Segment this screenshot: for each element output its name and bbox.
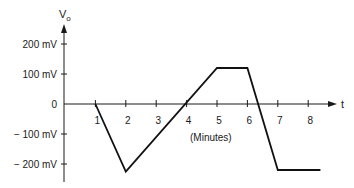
axes — [61, 24, 337, 182]
x-tick-label: 1 — [95, 115, 101, 126]
y-tick-label: − 100 mV — [14, 129, 57, 140]
x-tick-label: 7 — [277, 115, 283, 126]
chart: 200 mV100 mV0− 100 mV− 200 mV 12345678 V… — [0, 0, 354, 188]
y-tick-label: 200 mV — [23, 39, 58, 50]
x-tick-label: 8 — [307, 115, 313, 126]
y-axis-label: Vo — [59, 8, 71, 23]
y-tick-label: 100 mV — [23, 69, 58, 80]
x-tick-label: 6 — [247, 115, 253, 126]
y-tick-label: 0 — [51, 99, 57, 110]
x-unit-label: (Minutes) — [190, 132, 232, 143]
x-tick-label: 2 — [125, 115, 131, 126]
x-axis-arrow-icon — [328, 101, 337, 107]
y-axis-arrow-icon — [61, 24, 67, 33]
x-tick-label: 3 — [155, 115, 161, 126]
y-tick-label: − 200 mV — [14, 159, 57, 170]
x-axis-label: t — [341, 98, 344, 110]
y-ticks: 200 mV100 mV0− 100 mV− 200 mV — [14, 39, 67, 170]
x-tick-label: 4 — [186, 115, 192, 126]
x-tick-label: 5 — [216, 115, 222, 126]
